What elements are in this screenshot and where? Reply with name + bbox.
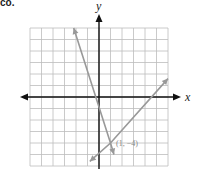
x-axis-left-arrow-icon	[20, 94, 28, 101]
x-axis-right-arrow-icon	[173, 94, 181, 101]
line-1	[74, 28, 114, 155]
y-axis-up-arrow-icon	[96, 14, 103, 22]
y-axis-label: y	[95, 0, 102, 13]
intersection-label: (1, −4)	[116, 139, 138, 148]
coordinate-plane: x y (1, −4)	[0, 0, 203, 169]
x-axis-label: x	[184, 90, 191, 104]
